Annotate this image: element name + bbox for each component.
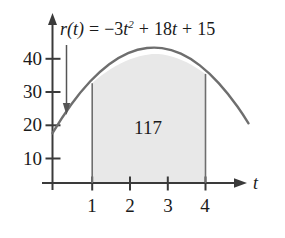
- formula-term1-coef: −3: [104, 19, 123, 39]
- x-axis-arrowhead: [234, 178, 247, 187]
- y-tick-label-30: 30: [8, 82, 42, 101]
- x-tick-label-2: 2: [119, 196, 141, 215]
- y-tick-label-20: 20: [8, 115, 42, 134]
- formula-term2-var: t: [172, 19, 177, 39]
- formula-plus1: +: [139, 19, 149, 39]
- shaded-area-value-label: 117: [118, 118, 178, 137]
- formula-equals: =: [89, 19, 99, 39]
- x-tick-label-1: 1: [81, 196, 103, 215]
- formula-plus2: +: [182, 19, 192, 39]
- formula-term1-exponent: 2: [128, 18, 134, 30]
- formula-term2-coef: 18: [154, 19, 172, 39]
- y-axis-arrowhead: [48, 13, 57, 25]
- x-tick-label-3: 3: [157, 196, 179, 215]
- function-formula-label: r(t)=−3t2+18t+15: [60, 20, 215, 38]
- formula-lhs: r(t): [60, 19, 84, 39]
- x-axis-name-label: t: [253, 174, 258, 192]
- formula-constant: 15: [197, 19, 215, 39]
- figure-container: r(t)=−3t2+18t+15 40 30 20 10 1 2 3 4 t 1…: [0, 0, 285, 238]
- y-tick-label-40: 40: [8, 49, 42, 68]
- x-tick-label-4: 4: [194, 196, 216, 215]
- y-tick-label-10: 10: [8, 149, 42, 168]
